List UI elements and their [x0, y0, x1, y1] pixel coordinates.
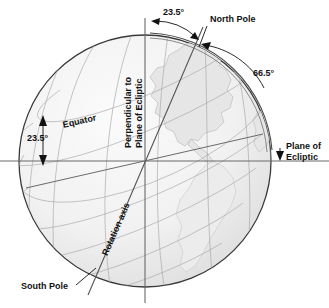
plane-ecliptic-arrowhead — [276, 151, 284, 161]
perpendicular-to-ecliptic-label: Perpendicular to — [123, 77, 134, 148]
perpendicular-line2: Plane of Ecliptic — [134, 78, 145, 148]
south-pole-label: South Pole — [21, 281, 68, 292]
globe-illustration — [0, 0, 329, 308]
tilt-angle-left-label: 23.5° — [27, 133, 48, 144]
angle-66-label: 66.5° — [253, 68, 274, 79]
plane-of-ecliptic-line1: Plane of — [286, 141, 321, 152]
perpendicular-to-ecliptic-label-2: Plane of Ecliptic — [134, 78, 145, 148]
perpendicular-line1: Perpendicular to — [123, 77, 134, 148]
top-tilt-arc — [155, 21, 196, 37]
north-pole-label: North Pole — [210, 14, 256, 25]
plane-of-ecliptic-line2: Ecliptic — [286, 152, 321, 163]
tilt-angle-top-label: 23.5° — [163, 7, 184, 18]
top-tilt-arrow-left — [151, 18, 160, 25]
earth-axial-tilt-diagram: 23.5° North Pole 66.5° Plane of Ecliptic… — [0, 0, 329, 308]
plane-of-ecliptic-label: Plane of Ecliptic — [286, 141, 321, 163]
